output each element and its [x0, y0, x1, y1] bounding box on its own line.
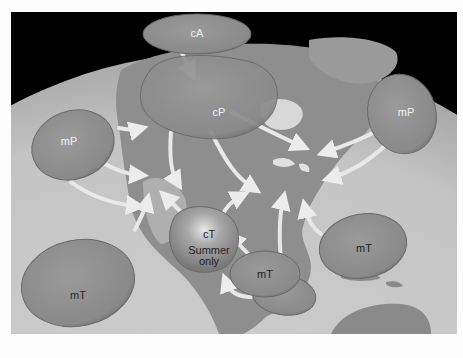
air-mass-label: mP — [61, 135, 78, 147]
air-mass-label: mP — [398, 106, 415, 118]
air-mass-diagram: cA cP mP mP mT cT Summer only mT mT — [11, 12, 457, 334]
air-mass-cT: cT Summer only — [170, 207, 239, 273]
air-mass-label: mT — [70, 289, 86, 301]
air-mass-label: mT — [257, 268, 273, 280]
arrow-mP-pacific-1 — [119, 128, 139, 130]
air-mass-note: only — [199, 255, 220, 267]
air-mass-label: mT — [356, 242, 372, 254]
air-mass-cA: cA — [143, 14, 251, 54]
air-mass-label: cA — [191, 27, 205, 39]
air-mass-label: cT — [203, 228, 216, 240]
air-mass-label: cP — [213, 106, 226, 118]
diagram-canvas: cA cP mP mP mT cT Summer only mT mT — [11, 12, 457, 334]
air-mass-cP: cP — [140, 55, 277, 138]
